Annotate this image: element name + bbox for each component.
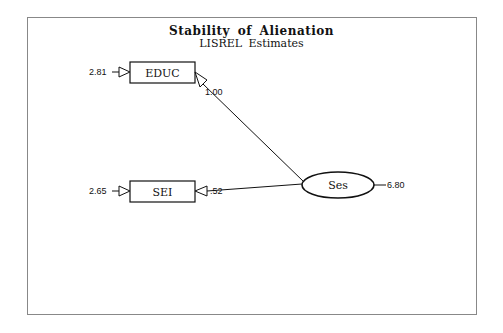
node-educ: EDUC bbox=[130, 62, 195, 83]
educ-error-arrow bbox=[112, 67, 130, 77]
path-diagram: Stability of Alienation LISREL Estimates… bbox=[0, 0, 503, 333]
sei-error-value: 2.65 bbox=[89, 186, 107, 196]
node-educ-label: EDUC bbox=[145, 67, 180, 80]
diagram-graphics: EDUC SEI Ses bbox=[0, 0, 503, 333]
educ-loading-value: 1.00 bbox=[205, 87, 223, 97]
ses-variance-value: 6.80 bbox=[387, 180, 405, 190]
educ-error-value: 2.81 bbox=[89, 67, 107, 77]
sei-error-arrow bbox=[112, 186, 130, 196]
node-sei: SEI bbox=[130, 181, 195, 202]
node-ses: Ses bbox=[302, 172, 374, 198]
node-sei-label: SEI bbox=[153, 186, 173, 199]
sei-loading-value: .52 bbox=[210, 186, 223, 196]
node-ses-label: Ses bbox=[328, 179, 348, 192]
